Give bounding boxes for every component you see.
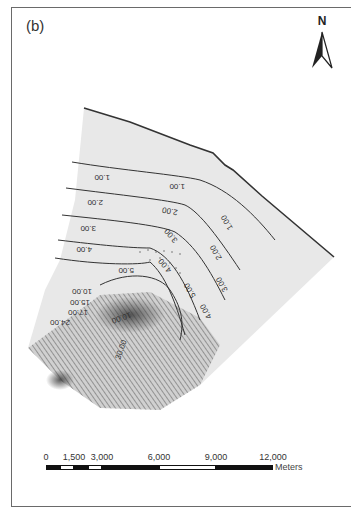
contour-label: 2.00 — [87, 198, 103, 207]
contour-label: 10.00 — [71, 287, 92, 296]
scale-tick: 6,000 — [148, 452, 171, 462]
contour-label: 24.00 — [49, 318, 70, 327]
scale-tick: 3,000 — [91, 452, 114, 462]
contour-label: 5.00 — [118, 266, 134, 275]
scale-tick: 12,000 — [259, 452, 287, 462]
scale-tick: 1,500 — [63, 452, 86, 462]
contour-label: 15.00 — [69, 298, 90, 307]
contour-label: 17.00 — [67, 308, 88, 317]
scale-units: Meters — [275, 462, 303, 472]
contour-label: 3.00 — [80, 224, 96, 233]
contour-label: 1.00 — [94, 173, 110, 182]
scale-tick: 0 — [43, 452, 48, 462]
contour-label: 1.00 — [169, 182, 185, 191]
contour-label: 4.00 — [76, 245, 92, 254]
scale-bar: 0 1,500 3,000 6,000 9,000 12,000 Meters — [46, 452, 306, 482]
scale-tick: 9,000 — [205, 452, 228, 462]
